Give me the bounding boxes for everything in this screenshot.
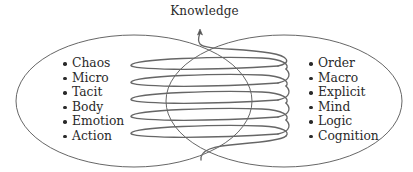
spiral xyxy=(131,33,289,160)
right-item-order: Order xyxy=(309,56,379,71)
right-item-logic: Logic xyxy=(309,114,379,129)
left-item-action: Action xyxy=(63,129,124,144)
left-item-micro: Micro xyxy=(63,71,124,86)
left-item-body: Body xyxy=(63,100,124,115)
right-set-list: Order Macro Explicit Mind Logic Cognitio… xyxy=(309,56,379,144)
right-item-mind: Mind xyxy=(309,100,379,115)
left-item-chaos: Chaos xyxy=(63,56,124,71)
right-item-cognition: Cognition xyxy=(309,129,379,144)
left-item-tacit: Tacit xyxy=(63,85,124,100)
left-set-list: Chaos Micro Tacit Body Emotion Action xyxy=(63,56,124,144)
right-item-macro: Macro xyxy=(309,71,379,86)
right-item-explicit: Explicit xyxy=(309,85,379,100)
left-item-emotion: Emotion xyxy=(63,114,124,129)
